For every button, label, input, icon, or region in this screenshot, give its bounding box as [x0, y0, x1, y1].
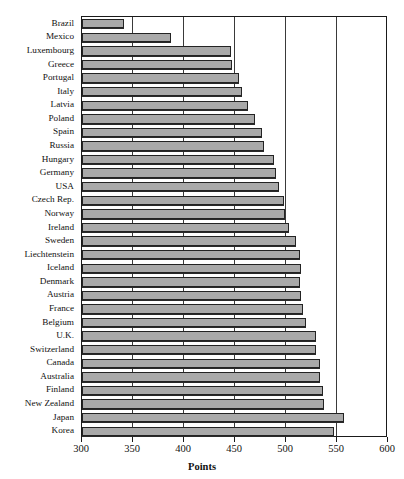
x-tick-label: 450	[214, 443, 254, 455]
bar	[82, 386, 323, 395]
y-axis-label: Latvia	[51, 99, 74, 109]
x-tick-550	[336, 437, 337, 442]
bar	[82, 114, 255, 123]
bar	[82, 46, 231, 55]
bar	[82, 277, 300, 286]
y-axis-label: U.K.	[56, 330, 74, 340]
bar	[82, 318, 306, 327]
x-tick-350	[132, 437, 133, 442]
x-tick-label: 550	[316, 443, 356, 455]
bar	[82, 128, 262, 137]
bar	[82, 427, 334, 436]
y-axis-label: Czech Rep.	[32, 194, 74, 204]
y-axis-label: Belgium	[42, 317, 74, 327]
bar	[82, 372, 320, 381]
y-axis-label: Poland	[48, 113, 74, 123]
y-axis-label: Luxembourg	[27, 45, 74, 55]
x-tick-label: 350	[112, 443, 152, 455]
bar	[82, 101, 248, 110]
y-axis-label: Greece	[48, 59, 74, 69]
y-axis-label: Denmark	[40, 276, 74, 286]
y-axis-label: Italy	[57, 86, 74, 96]
bar	[82, 236, 296, 245]
y-axis-labels: BrazilMexicoLuxembourgGreecePortugalItal…	[0, 16, 78, 437]
bar	[82, 196, 284, 205]
y-axis-label: Brazil	[52, 18, 74, 28]
x-tick-label: 300	[61, 443, 101, 455]
bar	[82, 87, 242, 96]
bar	[82, 250, 300, 259]
x-tick-500	[285, 437, 286, 442]
x-tick-label: 600	[367, 443, 404, 455]
y-axis-label: Canada	[46, 357, 74, 367]
gridline-550	[336, 17, 337, 436]
y-axis-label: Portugal	[43, 72, 74, 82]
y-axis-label: Hungary	[42, 154, 74, 164]
y-axis-label: Russia	[49, 140, 74, 150]
bar	[82, 182, 279, 191]
x-axis-title: Points	[0, 461, 404, 472]
y-axis-label: Finland	[46, 384, 74, 394]
y-axis-label: USA	[56, 181, 74, 191]
x-tick-400	[183, 437, 184, 442]
bar	[82, 168, 276, 177]
bar	[82, 155, 274, 164]
y-axis-label: Mexico	[46, 31, 74, 41]
y-axis-label: France	[49, 303, 74, 313]
y-axis-label: Japan	[53, 412, 74, 422]
y-axis-label: Germany	[40, 167, 74, 177]
plot-area	[81, 16, 387, 437]
y-axis-label: Iceland	[47, 262, 74, 272]
x-tick-label: 400	[163, 443, 203, 455]
x-tick-label: 500	[265, 443, 305, 455]
bar	[82, 345, 316, 354]
bar	[82, 19, 124, 28]
x-tick-600	[387, 437, 388, 442]
bar	[82, 399, 324, 408]
bar	[82, 73, 239, 82]
bar	[82, 291, 301, 300]
x-tick-450	[234, 437, 235, 442]
y-axis-label: Liechtenstein	[25, 249, 75, 259]
y-axis-label: Ireland	[48, 222, 74, 232]
bar	[82, 413, 344, 422]
bar	[82, 331, 316, 340]
bar	[82, 359, 320, 368]
y-axis-label: Australia	[40, 371, 74, 381]
chart-figure: BrazilMexicoLuxembourgGreecePortugalItal…	[0, 0, 404, 479]
y-axis-label: Norway	[44, 208, 74, 218]
y-axis-label: Spain	[53, 126, 74, 136]
bar	[82, 223, 289, 232]
y-axis-label: Switzerland	[30, 344, 74, 354]
bar	[82, 304, 303, 313]
y-axis-label: Austria	[47, 289, 74, 299]
chart-title	[0, 0, 404, 9]
x-tick-300	[81, 437, 82, 442]
y-axis-label: New Zealand	[25, 398, 74, 408]
bar	[82, 264, 301, 273]
bar	[82, 33, 171, 42]
bar	[82, 60, 232, 69]
bar	[82, 141, 264, 150]
bar	[82, 209, 285, 218]
y-axis-label: Korea	[52, 425, 74, 435]
x-axis-tick-labels: 300350400450500550600	[0, 443, 404, 457]
y-axis-label: Sweden	[45, 235, 74, 245]
